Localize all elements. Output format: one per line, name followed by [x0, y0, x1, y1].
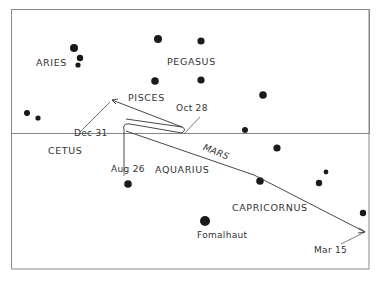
star-cetus-1 [24, 110, 30, 116]
star-cetus-2 [35, 115, 40, 120]
date-oct28: Oct 28 [176, 104, 208, 113]
star-6 [360, 210, 366, 216]
label-aquarius: AQUARIUS [155, 165, 209, 175]
star-pegasus-3 [197, 76, 204, 83]
star-1 [259, 91, 267, 99]
star-2 [242, 127, 248, 133]
leader-oct28 [184, 117, 200, 134]
label-pisces: PISCES [128, 93, 165, 103]
star-aries-2 [77, 55, 83, 61]
sky-chart [0, 0, 380, 287]
label-fomalhaut: Fomalhaut [197, 231, 247, 240]
chart-frame [12, 10, 370, 134]
star-aries-3 [75, 62, 80, 67]
date-aug26: Aug 26 [111, 165, 145, 174]
star-5 [316, 180, 322, 186]
star-pegasus-2 [197, 37, 204, 44]
label-pegasus: PEGASUS [167, 57, 216, 67]
star-3 [273, 144, 280, 151]
label-capricornus: CAPRICORNUS [232, 203, 308, 213]
date-dec31: Dec 31 [74, 129, 108, 138]
star-pegasus-1 [154, 35, 162, 43]
leader-mar15 [341, 232, 365, 244]
star-aries-1 [70, 44, 78, 52]
star-pisces-1 [151, 77, 159, 85]
date-mar15: Mar 15 [314, 246, 347, 255]
label-cetus: CETUS [48, 146, 82, 156]
star-4 [324, 170, 329, 175]
label-aries: ARIES [36, 58, 67, 68]
star-fomalhaut [200, 216, 210, 226]
star-aquarius-1 [124, 180, 132, 188]
